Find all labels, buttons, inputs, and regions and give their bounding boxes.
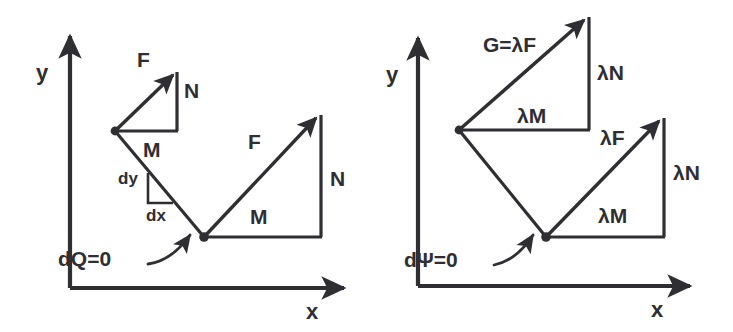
right-descending-segment <box>459 130 546 237</box>
figure-root: y x F N M <box>0 0 733 332</box>
left-lower-label-f: F <box>248 130 261 153</box>
left-dxdy-legs <box>148 173 173 203</box>
left-dy-label: dy <box>118 169 138 188</box>
right-lower-label-lambda-n: λN <box>673 161 700 184</box>
left-panel: y x F N M <box>36 36 345 324</box>
left-lower-node-dot <box>199 232 209 242</box>
left-upper-node-dot <box>111 127 120 136</box>
right-upper-node-dot <box>455 126 464 135</box>
left-x-axis-label: x <box>306 299 319 324</box>
left-upper-vector-triangle <box>115 72 178 131</box>
left-y-axis-label: y <box>36 60 49 85</box>
right-x-axis-label: x <box>651 297 664 322</box>
right-upper-label-g: G=λF <box>483 33 536 56</box>
right-panel: y x G=λF λN λM <box>386 17 700 322</box>
left-lower-label-m: M <box>250 205 268 228</box>
right-lower-label-lambda-f: λF <box>600 126 625 149</box>
right-lower-label-lambda-m: λM <box>598 204 627 227</box>
diagram-canvas: y x F N M <box>0 0 733 332</box>
left-upper-label-f: F <box>137 48 150 71</box>
right-upper-label-lambda-n: λN <box>597 61 624 84</box>
left-lower-label-n: N <box>330 167 345 190</box>
right-upper-label-lambda-m: λM <box>517 104 546 127</box>
left-upper-label-m: M <box>143 138 161 161</box>
left-upper-vector-f <box>115 75 173 131</box>
left-callout-label: dQ=0 <box>58 247 111 270</box>
right-lower-node-dot <box>541 232 551 242</box>
left-callout-arrow <box>148 235 190 264</box>
left-dxdy-triangle <box>148 173 173 203</box>
right-callout-label: dΨ=0 <box>404 248 458 271</box>
left-upper-label-n: N <box>184 79 199 102</box>
right-callout-arrow <box>494 235 533 265</box>
left-dx-label: dx <box>146 206 166 225</box>
right-y-axis-label: y <box>386 62 399 87</box>
